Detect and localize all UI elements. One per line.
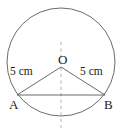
geometry-figure: O A B 5 cm 5 cm: [0, 0, 122, 131]
point-label-a: A: [9, 98, 18, 111]
point-label-o: O: [58, 53, 67, 66]
point-label-b: B: [104, 98, 113, 111]
radius-measure-label-left: 5 cm: [10, 66, 33, 78]
radius-measure-label-right: 5 cm: [80, 66, 103, 78]
